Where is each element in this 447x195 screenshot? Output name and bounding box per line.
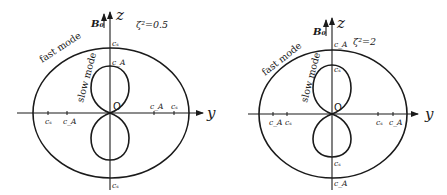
y-axis-label: y	[206, 104, 216, 122]
y-left-outer-speed: c_A	[269, 118, 283, 127]
z-bottom-slow-speed: cₛ	[334, 159, 341, 168]
origin-label: O	[113, 101, 121, 112]
parameter-label: ζ²=2	[353, 36, 376, 47]
b0-label: B₀	[312, 26, 326, 37]
diagram-left: z y B₀ ζ²=0.5 O fast mode slow mode cₛ c…	[17, 6, 216, 190]
wave-mode-diagrams: z y B₀ ζ²=0.5 O fast mode slow mode cₛ c…	[0, 0, 447, 195]
z-top-slow-speed: c_A	[112, 58, 126, 67]
y-left-inner-speed: c_A	[63, 117, 77, 126]
diagram-right: z y B₀ ζ²=2 O fast mode slow mode c_A cₛ…	[248, 14, 434, 190]
z-top-slow-speed: cₛ	[334, 65, 341, 74]
y-left-outer-speed: cₛ	[45, 117, 52, 126]
b0-label: B₀	[90, 18, 104, 29]
z-axis-label: z	[336, 14, 345, 32]
z-axis-label: z	[115, 6, 124, 24]
origin-label: O	[334, 102, 342, 113]
fast-mode-label: fast mode	[37, 29, 83, 64]
slow-mode-label: slow mode	[74, 51, 98, 104]
y-right-outer-speed: cₛ	[171, 102, 178, 111]
y-right-inner-speed: cₛ	[376, 118, 383, 127]
y-left-inner-speed: cₛ	[285, 118, 292, 127]
z-top-fast-speed: cₛ	[112, 39, 119, 48]
z-bottom-fast-speed: cₛ	[112, 181, 119, 190]
y-right-outer-speed: c_A	[389, 118, 403, 127]
slow-mode-label: slow mode	[298, 51, 322, 104]
y-axis-label: y	[424, 105, 434, 123]
z-top-fast-speed: c_A	[334, 40, 348, 49]
z-bottom-fast-speed: c_A	[334, 179, 348, 188]
y-right-inner-speed: c_A	[150, 102, 164, 111]
parameter-label: ζ²=0.5	[136, 19, 168, 30]
